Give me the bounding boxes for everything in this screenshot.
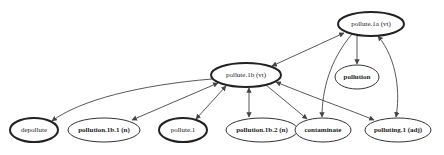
node-label: pollute.1	[171, 126, 196, 134]
node-pollute-1b[interactable]: pollute.1b (vt)	[211, 63, 281, 87]
node-label: pollution	[344, 73, 371, 81]
node-pollution-1b-2[interactable]: pollution.1b.2 (n)	[226, 118, 298, 142]
node-pollution[interactable]: pollution	[335, 65, 379, 89]
node-pollution-1b-1[interactable]: pollution.1b.1 (n)	[68, 118, 140, 142]
node-label: pollution.1b.2 (n)	[236, 126, 288, 134]
edge-pollute1b-depollute	[52, 79, 212, 121]
node-label: pollute.1b (vt)	[226, 71, 267, 79]
node-label: pollute.1a (vt)	[351, 20, 391, 28]
node-label: depollute	[21, 126, 47, 134]
node-label: pollution.1b.1 (n)	[78, 126, 130, 134]
node-contaminate[interactable]: contaminate	[295, 118, 351, 142]
node-polluting-1[interactable]: polluting.1 (adj)	[365, 118, 431, 142]
edge-pollute1a-pollute1b	[272, 33, 344, 66]
graph-canvas: pollute.1a (vt) pollution pollute.1b (vt…	[0, 0, 444, 155]
edge-pollute1b-contaminate	[266, 85, 307, 119]
node-label: contaminate	[305, 126, 342, 134]
edge-pollute1a-polluting1	[378, 36, 398, 117]
node-pollute-1[interactable]: pollute.1	[159, 118, 207, 142]
node-pollute-1a[interactable]: pollute.1a (vt)	[338, 12, 404, 36]
edge-pollute1b-pollution1b1	[132, 83, 218, 120]
node-depollute[interactable]: depollute	[10, 118, 58, 142]
node-label: polluting.1 (adj)	[374, 126, 423, 134]
